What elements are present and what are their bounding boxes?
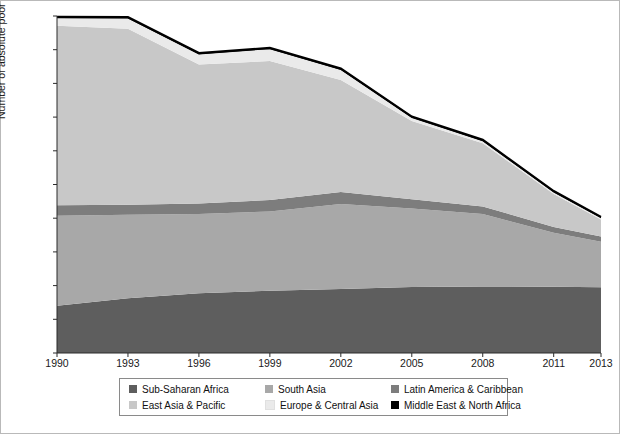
- legend-label-latin-america-caribbean: Latin America & Caribbean: [404, 384, 523, 395]
- legend-item-sub-saharan-africa[interactable]: Sub-Saharan Africa: [129, 384, 265, 395]
- legend-label-middle-east-north-africa: Middle East & North Africa: [404, 400, 521, 411]
- legend-label-east-asia-pacific: East Asia & Pacific: [142, 400, 225, 411]
- legend-label-europe-central-asia: Europe & Central Asia: [280, 400, 378, 411]
- legend-swatch-sub-saharan-africa: [129, 385, 137, 393]
- legend-item-south-asia[interactable]: South Asia: [265, 384, 391, 395]
- legend-item-europe-central-asia[interactable]: Europe & Central Asia: [265, 400, 391, 411]
- chart-legend: Sub-Saharan Africa South Asia Latin Amer…: [119, 378, 508, 416]
- legend-label-sub-saharan-africa: Sub-Saharan Africa: [142, 384, 229, 395]
- legend-item-east-asia-pacific[interactable]: East Asia & Pacific: [129, 400, 265, 411]
- chart-figure: Number of absolute poor (in millions) 02…: [0, 0, 620, 434]
- stacked-area-plot: [1, 1, 622, 436]
- legend-label-south-asia: South Asia: [278, 384, 326, 395]
- legend-item-latin-america-caribbean[interactable]: Latin America & Caribbean: [391, 384, 523, 395]
- legend-swatch-latin-america-caribbean: [391, 385, 399, 393]
- legend-swatch-europe-central-asia: [265, 400, 275, 410]
- legend-item-middle-east-north-africa[interactable]: Middle East & North Africa: [391, 400, 523, 411]
- legend-swatch-middle-east-north-africa: [391, 401, 399, 409]
- legend-swatch-east-asia-pacific: [129, 401, 137, 409]
- legend-swatch-south-asia: [265, 385, 273, 393]
